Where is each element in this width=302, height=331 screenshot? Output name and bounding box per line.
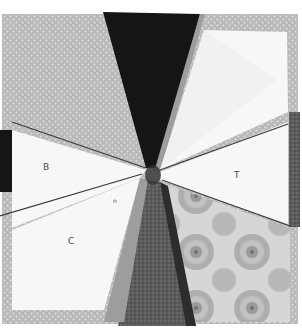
label-n: n bbox=[113, 197, 117, 204]
label-b: B bbox=[43, 162, 49, 172]
black-strip-left bbox=[0, 130, 12, 192]
label-c: C bbox=[68, 236, 74, 246]
quilt-block-photo: B C T n bbox=[0, 0, 302, 331]
label-t: T bbox=[233, 170, 240, 180]
center-thread-knot bbox=[145, 165, 161, 185]
quilt-block-illustration: B C T n bbox=[0, 0, 302, 331]
textured-strip-right bbox=[289, 112, 300, 227]
